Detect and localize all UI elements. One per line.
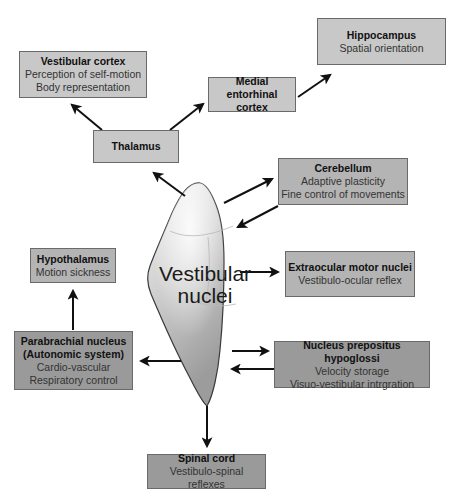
node-title: Vestibular cortex <box>41 55 126 68</box>
node-thalamus: Thalamus <box>93 130 179 163</box>
node-vestibular-cortex: Vestibular cortex Perception of self-mot… <box>19 51 147 98</box>
arrow-nuclei-to-cerebellum <box>224 179 272 203</box>
node-cerebellum: Cerebellum Adaptive plasticity Fine cont… <box>278 158 408 205</box>
vestibular-pathways-diagram: Vestibular nuclei Vestibular cortex Perc… <box>0 0 460 504</box>
node-title: Thalamus <box>111 140 160 153</box>
node-title: Cerebellum <box>314 162 371 175</box>
arrow-nuclei-to-thalamus <box>154 173 185 196</box>
node-extraocular-motor-nuclei: Extraocular motor nuclei Vestibulo-ocula… <box>285 251 415 297</box>
arrow-thalamus-to-entorhinal <box>170 104 203 130</box>
node-medial-entorhinal-cortex: Medial entorhinal cortex <box>208 77 296 112</box>
node-title: Extraocular motor nuclei <box>288 261 412 274</box>
node-title: Medial entorhinal <box>211 75 293 101</box>
node-title: (Autonomic system) <box>23 348 124 361</box>
node-parabrachial-nucleus: Parabrachial nucleus (Autonomic system) … <box>14 331 133 390</box>
arrow-cerebellum-to-nuclei <box>238 206 278 227</box>
nuclei-label-line1: Vestibular <box>145 263 265 285</box>
node-hippocampus: Hippocampus Spatial orientation <box>317 18 446 65</box>
node-title: cortex <box>236 101 268 114</box>
node-spinal-cord: Spinal cord Vestibulo-spinal reflexes <box>147 454 266 489</box>
node-title: Parabrachial nucleus <box>21 335 127 348</box>
node-function: Vestibulo-ocular reflex <box>298 274 401 287</box>
node-title: Hippocampus <box>347 29 416 42</box>
node-function: Adaptive plasticity <box>301 175 385 188</box>
node-function: Vestibulo-spinal reflexes <box>150 465 263 491</box>
node-function: Body representation <box>36 81 130 94</box>
node-function: Perception of self-motion <box>25 68 141 81</box>
node-title: Spinal cord <box>178 452 235 465</box>
node-function: Fine control of movements <box>281 188 405 201</box>
node-function: Velocity storage <box>315 365 389 378</box>
node-title: Hypothalamus <box>37 253 109 266</box>
node-title: Nucleus prepositus hypoglossi <box>277 339 427 365</box>
vestibular-nuclei-label: Vestibular nuclei <box>145 263 265 307</box>
node-function: Visuo-vestibular intrgration <box>290 378 414 391</box>
node-hypothalamus: Hypothalamus Motion sickness <box>30 248 116 283</box>
arrow-thalamus-to-vestibular-cortex <box>72 105 102 130</box>
nuclei-label-line2: nuclei <box>145 285 265 307</box>
node-function: Cardio-vascular <box>37 361 111 374</box>
node-function: Respiratory control <box>29 374 117 387</box>
arrow-entorhinal-to-hippocampus <box>298 75 330 97</box>
node-function: Spatial orientation <box>339 42 423 55</box>
node-nucleus-prepositus-hypoglossi: Nucleus prepositus hypoglossi Velocity s… <box>274 341 430 388</box>
node-function: Motion sickness <box>36 266 111 279</box>
